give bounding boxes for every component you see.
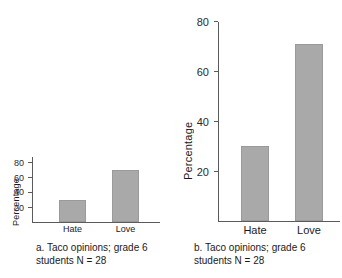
plot-area-b: 20 40 60 80 Hate Love bbox=[218, 22, 340, 222]
x-tick-label-a-love: Love bbox=[116, 225, 136, 234]
plot-area-a: 20 40 60 80 Hate Love bbox=[32, 157, 160, 223]
bar-a-hate[interactable] bbox=[59, 200, 86, 222]
bar-slot-b-hate: Hate bbox=[241, 22, 269, 221]
figure-container: Percentage 20 40 60 80 Hate bbox=[0, 0, 342, 278]
x-tick-label-b-love: Love bbox=[297, 225, 321, 236]
bar-slot-a-hate: Hate bbox=[59, 157, 86, 222]
y-tick-label-a-20: 20 bbox=[14, 203, 24, 212]
bar-group-a: Hate Love bbox=[33, 157, 160, 222]
bar-slot-b-love: Love bbox=[295, 22, 323, 221]
caption-a: a. Taco opinions; grade 6 students N = 2… bbox=[36, 241, 166, 267]
y-tick-label-a-80: 80 bbox=[14, 158, 24, 167]
caption-a-line1: a. Taco opinions; grade 6 bbox=[36, 241, 166, 254]
bar-b-hate[interactable] bbox=[241, 146, 269, 221]
bar-b-love[interactable] bbox=[295, 44, 323, 221]
y-tick-label-a-40: 40 bbox=[14, 188, 24, 197]
caption-a-line2: students N = 28 bbox=[36, 254, 166, 267]
y-tick-label-a-60: 60 bbox=[14, 173, 24, 182]
y-tick-a-20: 20 bbox=[28, 207, 32, 208]
caption-b-line1: b. Taco opinions; grade 6 bbox=[194, 241, 334, 254]
x-tick-label-a-hate: Hate bbox=[63, 225, 82, 234]
y-tick-label-b-40: 40 bbox=[197, 116, 209, 127]
chart-panel-b: Percentage 20 40 60 80 Hate bbox=[172, 0, 342, 278]
bar-a-love[interactable] bbox=[112, 170, 139, 222]
y-tick-label-b-20: 20 bbox=[197, 166, 209, 177]
chart-panel-a: Percentage 20 40 60 80 Hate bbox=[0, 0, 172, 278]
x-axis-line-b bbox=[218, 221, 340, 222]
caption-b-line2: students N = 28 bbox=[194, 254, 334, 267]
y-tick-b-40: 40 bbox=[214, 121, 218, 122]
x-axis-line-a bbox=[32, 222, 160, 223]
y-tick-a-60: 60 bbox=[28, 177, 32, 178]
y-tick-a-80: 80 bbox=[28, 162, 32, 163]
bar-slot-a-love: Love bbox=[112, 157, 139, 222]
y-tick-b-20: 20 bbox=[214, 171, 218, 172]
caption-b: b. Taco opinions; grade 6 students N = 2… bbox=[194, 241, 334, 267]
y-tick-b-80: 80 bbox=[214, 21, 218, 22]
y-axis-label-b: Percentage bbox=[182, 70, 194, 180]
y-tick-a-40: 40 bbox=[28, 192, 32, 193]
y-tick-b-60: 60 bbox=[214, 71, 218, 72]
y-tick-label-b-80: 80 bbox=[197, 16, 209, 27]
x-tick-label-b-hate: Hate bbox=[243, 225, 266, 236]
bar-group-b: Hate Love bbox=[219, 22, 340, 221]
y-tick-label-b-60: 60 bbox=[197, 66, 209, 77]
